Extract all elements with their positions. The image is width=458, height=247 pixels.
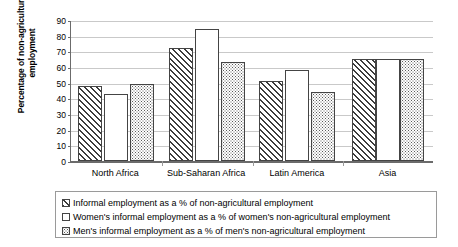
y-tick-label: 50 bbox=[57, 79, 66, 89]
category-label: Latin America bbox=[252, 168, 343, 178]
y-tick-label: 80 bbox=[57, 32, 66, 42]
legend-label: Informal employment as a % of non-agricu… bbox=[73, 198, 313, 208]
category-label: North Africa bbox=[70, 168, 161, 178]
legend-item: Informal employment as a % of non-agricu… bbox=[62, 196, 436, 209]
plot-area: 0102030405060708090 bbox=[70, 21, 433, 162]
y-tick-mark bbox=[68, 162, 71, 163]
y-tick-label: 70 bbox=[57, 47, 66, 57]
y-tick-label: 0 bbox=[61, 157, 66, 167]
y-tick-label: 60 bbox=[57, 63, 66, 73]
category-separator bbox=[162, 161, 163, 166]
bar-groups bbox=[71, 21, 433, 161]
bar-group bbox=[343, 21, 434, 161]
legend-item: Men's informal employment as a % of men'… bbox=[62, 224, 436, 237]
bar bbox=[169, 48, 193, 161]
category-separator bbox=[343, 161, 344, 166]
bar bbox=[376, 59, 400, 161]
bar-group bbox=[252, 21, 343, 161]
legend-label: Men's informal employment as a % of men'… bbox=[73, 226, 365, 236]
category-label: Sub-Saharan Africa bbox=[161, 168, 252, 178]
y-tick-label: 10 bbox=[57, 141, 66, 151]
bar bbox=[78, 86, 102, 161]
bar bbox=[352, 59, 376, 161]
y-tick-label: 90 bbox=[57, 16, 66, 26]
bar bbox=[104, 94, 128, 161]
y-tick-label: 20 bbox=[57, 126, 66, 136]
bar bbox=[259, 81, 283, 161]
category-separator bbox=[253, 161, 254, 166]
bar bbox=[221, 62, 245, 161]
bar bbox=[311, 92, 335, 161]
legend-swatch-icon bbox=[62, 199, 70, 207]
bar-chart: Percentage of non-agricultural employmen… bbox=[0, 0, 458, 247]
bar-group bbox=[71, 21, 162, 161]
bar-group bbox=[162, 21, 253, 161]
legend-item: Women's informal employment as a % of wo… bbox=[62, 210, 436, 223]
legend-label: Women's informal employment as a % of wo… bbox=[73, 212, 390, 222]
bar bbox=[195, 29, 219, 161]
y-axis-title: Percentage of non-agricultural employmen… bbox=[16, 0, 38, 128]
category-label: Asia bbox=[342, 168, 433, 178]
legend-swatch-icon bbox=[62, 227, 70, 235]
bar bbox=[285, 70, 309, 161]
y-tick-label: 30 bbox=[57, 110, 66, 120]
chart-legend: Informal employment as a % of non-agricu… bbox=[55, 191, 437, 238]
legend-swatch-icon bbox=[62, 213, 70, 221]
y-tick-label: 40 bbox=[57, 94, 66, 104]
bar bbox=[130, 84, 154, 161]
bar bbox=[400, 59, 424, 161]
